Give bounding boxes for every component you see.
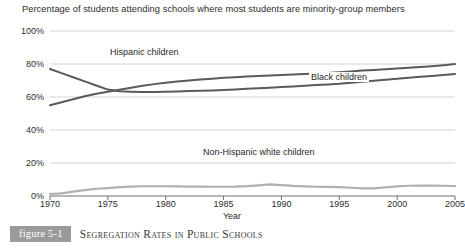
series-line-non-hispanic-white-children xyxy=(50,184,455,194)
figure-number-badge: figure 5-1 xyxy=(10,226,71,242)
figure-caption: figure 5-1 Segregation Rates in Public S… xyxy=(10,226,263,242)
chart-svg xyxy=(0,22,464,202)
x-tick-label-1985: 1985 xyxy=(214,199,234,210)
x-tick-label-1975: 1975 xyxy=(98,199,118,210)
x-tick-label-1980: 1980 xyxy=(156,199,176,210)
figure-caption-text: Segregation Rates in Public Schools xyxy=(80,226,263,242)
x-axis-title: Year xyxy=(0,211,464,222)
series-label-non-hispanic-white-children: Non-Hispanic white children xyxy=(201,147,317,157)
x-tick-label-1970: 1970 xyxy=(40,199,60,210)
series-label-black-children: Black children xyxy=(309,72,369,82)
x-tick-label-2000: 2000 xyxy=(387,199,407,210)
plot-area xyxy=(0,22,464,202)
series-line-hispanic-children xyxy=(50,64,455,105)
x-tick-label-1995: 1995 xyxy=(329,199,349,210)
x-tick-label-2005: 2005 xyxy=(445,199,465,210)
x-tick-label-1990: 1990 xyxy=(271,199,291,210)
chart-title: Percentage of students attending schools… xyxy=(22,3,405,15)
series-line-black-children xyxy=(50,69,455,92)
series-label-hispanic-children: Hispanic children xyxy=(108,47,181,57)
